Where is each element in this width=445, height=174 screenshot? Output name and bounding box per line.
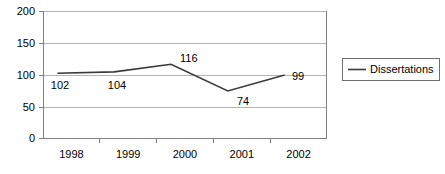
- y-tick-label-100: 100: [17, 69, 35, 81]
- x-tick-label-1999: 1999: [116, 148, 140, 160]
- x-tick-label-2000: 2000: [173, 148, 197, 160]
- point-label-1998: 102: [51, 79, 69, 91]
- y-tick-label-200: 200: [17, 5, 35, 17]
- y-tick-label-150: 150: [17, 37, 35, 49]
- x-tick-label-2001: 2001: [230, 148, 254, 160]
- point-label-2001: 74: [237, 95, 249, 107]
- chart-legend: Dissertations: [343, 59, 440, 81]
- x-tick-label-1998: 1998: [59, 148, 83, 160]
- x-tick-label-2002: 2002: [286, 148, 310, 160]
- legend-label-dissertations: Dissertations: [370, 63, 434, 75]
- point-label-1999: 104: [108, 79, 126, 91]
- point-label-2000: 116: [180, 52, 198, 64]
- line-chart: 200 150 100 50 0 1998 1999 2000 2001 200…: [0, 0, 445, 174]
- chart-canvas: 200 150 100 50 0 1998 1999 2000 2001 200…: [0, 0, 445, 174]
- y-tick-label-0: 0: [29, 132, 35, 144]
- y-tick-label-50: 50: [23, 101, 35, 113]
- point-label-2002: 99: [292, 70, 304, 82]
